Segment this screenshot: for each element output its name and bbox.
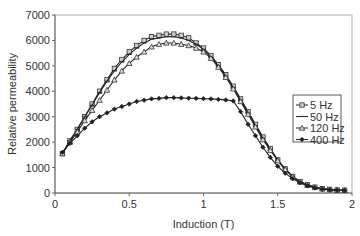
- triangle-marker: [141, 49, 146, 54]
- diamond-marker: [194, 96, 198, 100]
- diamond-marker: [120, 104, 124, 108]
- legend-label: 120 Hz: [310, 122, 345, 134]
- y-tick-label: 4000: [26, 85, 50, 97]
- x-tick-label: 1: [200, 198, 206, 210]
- legend-label: 50 Hz: [310, 111, 339, 123]
- diamond-marker: [149, 97, 153, 101]
- square-marker: [164, 32, 168, 36]
- line-chart: 0100020003000400050006000700000.511.52In…: [0, 0, 360, 236]
- square-marker: [149, 34, 153, 38]
- y-tick-label: 5000: [26, 60, 50, 72]
- diamond-marker: [112, 107, 116, 111]
- diamond-marker: [127, 102, 131, 106]
- square-marker: [157, 33, 161, 37]
- square-marker: [179, 33, 183, 37]
- y-axis-label: Relative permeability: [6, 52, 18, 155]
- x-axis-label: Induction (T): [173, 218, 235, 230]
- diamond-marker: [105, 111, 109, 115]
- diamond-marker: [201, 96, 205, 100]
- diamond-marker: [209, 97, 213, 101]
- x-tick-label: 0: [52, 198, 58, 210]
- diamond-marker: [134, 99, 138, 103]
- y-tick-label: 3000: [26, 111, 50, 123]
- y-tick-label: 1000: [26, 162, 50, 174]
- diamond-marker: [224, 98, 228, 102]
- chart-container: 0100020003000400050006000700000.511.52In…: [0, 0, 360, 236]
- y-tick-label: 0: [44, 187, 50, 199]
- y-tick-label: 6000: [26, 34, 50, 46]
- x-tick-label: 1.5: [270, 198, 285, 210]
- legend-label: 400 Hz: [310, 134, 345, 146]
- diamond-marker: [142, 98, 146, 102]
- diamond-marker: [186, 96, 190, 100]
- square-marker: [172, 32, 176, 36]
- x-tick-label: 2: [349, 198, 355, 210]
- diamond-marker: [172, 95, 176, 99]
- square-marker: [300, 103, 304, 107]
- diamond-marker: [179, 96, 183, 100]
- triangle-marker: [134, 54, 139, 59]
- diamond-marker: [164, 95, 168, 99]
- legend: 5 Hz50 Hz120 Hz400 Hz: [293, 95, 345, 146]
- y-tick-label: 7000: [26, 9, 50, 21]
- x-tick-label: 0.5: [122, 198, 137, 210]
- diamond-marker: [157, 96, 161, 100]
- y-tick-label: 2000: [26, 136, 50, 148]
- legend-label: 5 Hz: [310, 99, 333, 111]
- diamond-marker: [216, 97, 220, 101]
